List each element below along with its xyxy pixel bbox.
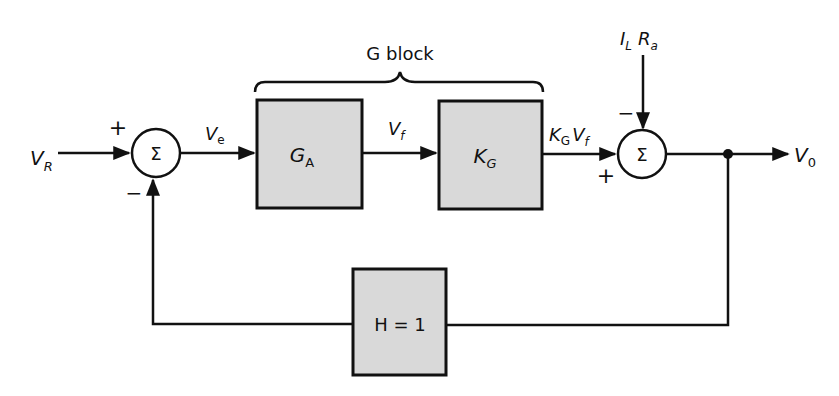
g-block-brace [255,72,543,92]
summing-junction-2: Σ [618,130,666,178]
sum1-plus-sign: + [109,115,127,140]
disturbance-label: ILRa [620,28,658,53]
block-diagram: VR Σ + − Ve G block GA Vf KG KGVf Σ + − … [0,0,839,396]
block-h-label: H = 1 [374,314,426,335]
output-v0-label: V0 [794,143,816,170]
signal-kgvf-label: KGVf [549,124,590,149]
sum2-plus-sign: + [597,163,615,188]
input-vr-label: VR [30,146,53,174]
summing-junction-1: Σ [132,129,180,177]
block-kg: KG [439,101,542,209]
svg-text:Σ: Σ [150,143,161,164]
g-block-label: G block [366,43,434,64]
signal-ve-label: Ve [205,123,225,147]
sum2-minus-sign: − [618,101,635,125]
signal-vf-label: Vf [388,118,406,143]
sum1-minus-sign: − [126,181,143,205]
block-h: H = 1 [353,269,446,375]
block-ga: GA [257,100,362,208]
svg-text:Σ: Σ [636,144,647,165]
